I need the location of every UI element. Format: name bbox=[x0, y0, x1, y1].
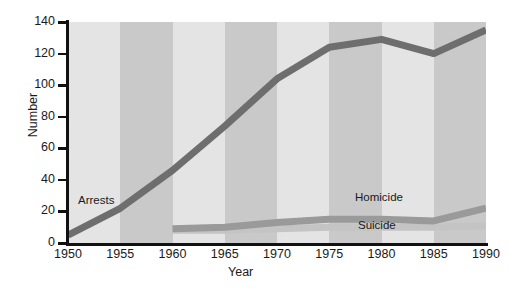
x-tick-label: 1980 bbox=[352, 248, 412, 261]
x-tick-label: 1955 bbox=[90, 248, 150, 261]
y-tick-mark bbox=[58, 179, 68, 182]
series-label-arrests: Arrests bbox=[78, 194, 114, 206]
series-layer bbox=[68, 22, 486, 243]
x-axis-line bbox=[66, 243, 488, 246]
x-tick-label: 1960 bbox=[143, 248, 203, 261]
x-tick-label: 1990 bbox=[456, 248, 510, 261]
x-tick-label: 1970 bbox=[247, 248, 307, 261]
series-label-homicide: Homicide bbox=[355, 191, 403, 203]
y-tick-label: 120 bbox=[13, 47, 55, 60]
y-tick-label: 140 bbox=[13, 15, 55, 28]
series-line-arrests bbox=[68, 30, 486, 235]
y-tick-label: 20 bbox=[13, 204, 55, 217]
x-axis-title: Year bbox=[228, 265, 253, 279]
y-axis-title: Number bbox=[26, 75, 40, 155]
y-tick-label: 0 bbox=[13, 236, 55, 249]
x-tick-label: 1950 bbox=[38, 248, 98, 261]
x-tick-label: 1985 bbox=[404, 248, 464, 261]
chart-figure: 020406080100120140 195019551960196519701… bbox=[0, 0, 510, 291]
y-tick-label: 40 bbox=[13, 173, 55, 186]
x-tick-label: 1965 bbox=[195, 248, 255, 261]
series-label-suicide: Suicide bbox=[358, 219, 396, 231]
y-tick-mark bbox=[58, 53, 68, 56]
y-tick-mark bbox=[58, 242, 68, 245]
y-tick-mark bbox=[58, 84, 68, 87]
y-tick-mark bbox=[58, 116, 68, 119]
y-tick-mark bbox=[58, 21, 68, 24]
x-tick-label: 1975 bbox=[299, 248, 359, 261]
y-tick-mark bbox=[58, 147, 68, 150]
y-tick-mark bbox=[58, 210, 68, 213]
plot-area bbox=[68, 22, 486, 243]
